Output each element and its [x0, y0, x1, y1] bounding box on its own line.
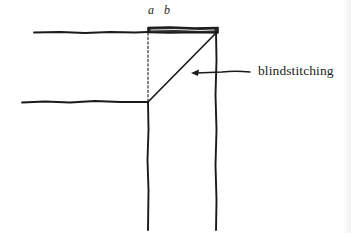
mitered-diagonal: [148, 33, 216, 102]
label-b: b: [164, 4, 170, 16]
lower-edge-line: [22, 101, 148, 103]
blindstitching-label: blindstitching: [258, 64, 334, 78]
inner-vertical-edge: [148, 102, 149, 230]
outer-vertical-edge: [216, 32, 217, 230]
callout-arrow-head: [191, 70, 199, 77]
top-edge-line: [34, 32, 148, 33]
callout-arrow-line: [196, 71, 250, 73]
page-edge-shading: [343, 0, 351, 233]
label-a: a: [148, 4, 154, 16]
hem-corner-diagram: [0, 0, 351, 233]
